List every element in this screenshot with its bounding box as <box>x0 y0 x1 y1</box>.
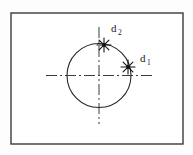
star-burst-icon <box>121 60 135 74</box>
diagram-border <box>11 13 183 144</box>
label-d1-subscript: 1 <box>147 58 151 67</box>
star-burst-icon <box>97 38 111 52</box>
label-d1: d <box>140 52 146 64</box>
technical-diagram: d 2 d 1 <box>0 0 193 155</box>
figure-container: d 2 d 1 <box>0 0 193 155</box>
label-d2-subscript: 2 <box>118 28 122 37</box>
label-d2: d <box>111 22 117 34</box>
